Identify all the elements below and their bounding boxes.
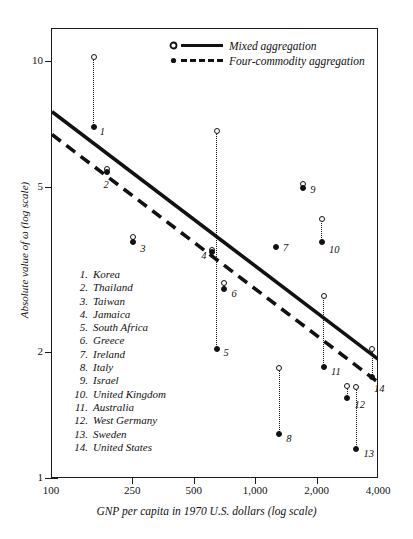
country-key-item: 10.United Kingdom [66, 388, 166, 401]
x-tick-label: 4,000 [355, 484, 401, 496]
data-point-filled-10[interactable] [319, 239, 325, 245]
point-connector [93, 57, 94, 127]
data-point-filled-14[interactable] [369, 374, 375, 380]
x-tick-label: 2,000 [294, 484, 340, 496]
data-point-label-2: 2 [104, 179, 109, 190]
data-point-filled-2[interactable] [104, 169, 110, 175]
point-connector [356, 387, 357, 449]
country-key-number: 2. [66, 281, 88, 294]
solid-line-swatch [181, 44, 223, 47]
chart-page: 10521 1002505001,0002,0004,000 Absolute … [0, 0, 413, 539]
data-point-label-14: 14 [374, 383, 385, 394]
data-point-filled-1[interactable] [91, 124, 97, 130]
y-tick-label: 10 [17, 55, 43, 66]
country-key-item: 11.Australia [66, 401, 166, 414]
country-key-name: United Kingdom [93, 388, 166, 401]
country-key-item: 13.Sweden [66, 428, 166, 441]
data-point-label-1: 1 [100, 126, 105, 137]
data-point-label-11: 11 [331, 366, 341, 377]
country-key-item: 3.Taiwan [66, 295, 166, 308]
data-point-open-5[interactable] [214, 128, 220, 134]
country-key-item: 5.South Africa [66, 321, 166, 334]
country-key-name: Ireland [93, 348, 125, 361]
country-key-item: 8.Italy [66, 361, 166, 374]
country-key-item: 9.Israel [66, 374, 166, 387]
country-key-number: 6. [66, 334, 88, 347]
data-point-label-5: 5 [224, 347, 229, 358]
country-key-name: Taiwan [93, 295, 125, 308]
legend-item-four-commodity: Four-commodity aggregation [168, 53, 383, 68]
country-key-item: 14.United States [66, 441, 166, 454]
point-connector [372, 349, 373, 377]
point-connector [216, 131, 217, 349]
country-key-number: 7. [66, 348, 88, 361]
open-circle-icon [168, 41, 179, 50]
legend-label-four-commodity: Four-commodity aggregation [229, 55, 365, 67]
data-point-filled-9[interactable] [300, 185, 306, 191]
data-point-open-10[interactable] [319, 216, 325, 222]
filled-circle-icon [168, 56, 179, 65]
dashed-line-swatch [181, 59, 223, 62]
data-point-label-6: 6 [231, 288, 236, 299]
country-key-number: 10. [66, 388, 88, 401]
data-point-open-1[interactable] [91, 54, 97, 60]
legend-label-mixed: Mixed aggregation [229, 40, 316, 52]
y-tick-label: 1 [17, 472, 43, 483]
data-point-label-8: 8 [286, 433, 291, 444]
country-key-item: 12.West Germany [66, 414, 166, 427]
legend-item-mixed: Mixed aggregation [168, 38, 383, 53]
data-point-label-9: 9 [310, 184, 315, 195]
x-tick-label: 1,000 [232, 484, 278, 496]
point-connector [323, 296, 324, 367]
country-key-item: 2.Thailand [66, 281, 166, 294]
country-key-list: 1.Korea2.Thailand3.Taiwan4.Jamaica5.Sout… [66, 268, 166, 454]
x-tick-label: 100 [28, 484, 74, 496]
data-point-open-11[interactable] [321, 293, 327, 299]
country-key-name: Jamaica [93, 308, 130, 321]
country-key-name: Sweden [93, 428, 127, 441]
country-key-name: Thailand [93, 281, 133, 294]
country-key-name: Israel [93, 374, 119, 387]
country-key-number: 3. [66, 295, 88, 308]
country-key-name: South Africa [93, 321, 148, 334]
country-key-name: Greece [93, 334, 124, 347]
country-key-number: 5. [66, 321, 88, 334]
data-point-label-3: 3 [140, 243, 145, 254]
country-key-item: 1.Korea [66, 268, 166, 281]
country-key-number: 9. [66, 374, 88, 387]
country-key-name: West Germany [93, 414, 157, 427]
data-point-label-4: 4 [201, 250, 206, 261]
y-tick-mark [45, 478, 58, 479]
country-key-name: Italy [93, 361, 113, 374]
country-key-name: Korea [93, 268, 120, 281]
country-key-name: United States [93, 441, 152, 454]
data-point-label-7: 7 [283, 242, 288, 253]
country-key-item: 7.Ireland [66, 348, 166, 361]
data-point-open-8[interactable] [276, 365, 282, 371]
country-key-number: 1. [66, 268, 88, 281]
country-key-number: 11. [66, 401, 88, 414]
country-key-number: 12. [66, 414, 88, 427]
y-axis-title: Absolute value of ω (log scale) [18, 150, 30, 350]
country-key-item: 4.Jamaica [66, 308, 166, 321]
x-tick-label: 250 [109, 484, 155, 496]
x-axis-title: GNP per capita in 1970 U.S. dollars (log… [0, 505, 413, 517]
country-key-number: 13. [66, 428, 88, 441]
data-point-filled-5[interactable] [214, 346, 220, 352]
country-key-number: 8. [66, 361, 88, 374]
data-point-filled-11[interactable] [321, 364, 327, 370]
country-key-number: 14. [66, 441, 88, 454]
legend: Mixed aggregation Four-commodity aggrega… [168, 38, 383, 68]
country-key-name: Australia [93, 401, 134, 414]
data-point-label-13: 13 [363, 448, 374, 459]
data-point-label-10: 10 [329, 244, 340, 255]
point-connector [279, 368, 280, 435]
country-key-number: 4. [66, 308, 88, 321]
x-tick-label: 500 [171, 484, 217, 496]
data-point-filled-7[interactable] [273, 244, 279, 250]
country-key-item: 6.Greece [66, 334, 166, 347]
